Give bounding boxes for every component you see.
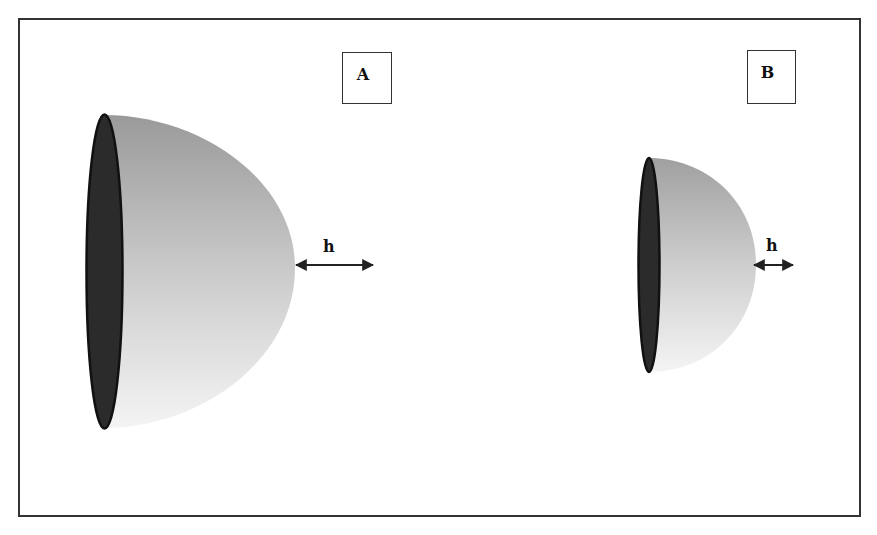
hemisphere-a [87,115,296,429]
hemisphere-a-base [87,115,123,429]
diagram-canvas [0,0,877,535]
hemisphere-b [639,158,757,372]
panel-label-box-b: B [747,50,796,104]
dimension-label-a: h [323,237,335,256]
panel-label-a: A [357,65,369,84]
hemisphere-a-dome [104,115,295,428]
panel-label-b: B [761,63,775,82]
hemisphere-b-base [639,158,660,372]
hemisphere-b-dome [649,158,756,372]
panel-label-box-a: A [342,52,392,104]
dimension-label-b: h [766,236,778,255]
